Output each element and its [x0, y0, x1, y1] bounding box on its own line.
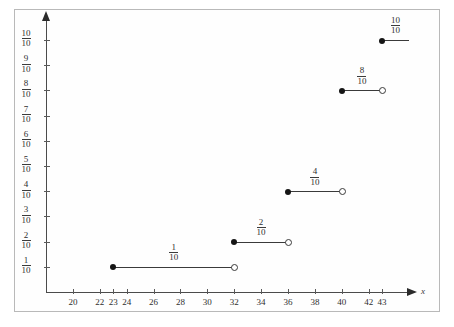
step-segment: [342, 90, 382, 91]
x-axis-tick-label: 32: [223, 297, 245, 307]
step-segment: [288, 191, 342, 192]
y-axis-tick: [44, 40, 50, 41]
x-axis-label: x: [421, 286, 425, 296]
x-axis-tick: [315, 289, 316, 294]
x-axis-tick-label: 34: [250, 297, 272, 307]
y-axis-tick: [44, 141, 50, 142]
x-axis-tick: [342, 289, 343, 294]
y-axis-tick: [44, 90, 50, 91]
y-axis-tick: [44, 267, 50, 268]
step-value-label: 1010: [381, 16, 411, 36]
closed-endpoint-dot: [339, 88, 345, 94]
figure-container: x 11021031041051061071081091010102022232…: [0, 0, 454, 327]
open-endpoint-circle: [379, 87, 386, 94]
x-axis-tick: [234, 289, 235, 294]
open-endpoint-circle: [285, 239, 292, 246]
x-axis-tick: [261, 289, 262, 294]
y-axis-line: [46, 18, 47, 293]
x-axis-tick-label: 36: [277, 297, 299, 307]
y-axis-tick-label: 210: [12, 231, 40, 251]
closed-endpoint-dot: [379, 38, 385, 44]
y-axis-tick-label: 710: [12, 105, 40, 125]
open-endpoint-circle: [339, 188, 346, 195]
closed-endpoint-dot: [110, 264, 116, 270]
x-axis-tick-label: 38: [304, 297, 326, 307]
y-axis-tick-label: 110: [12, 256, 40, 276]
x-axis-tick: [113, 289, 114, 294]
y-axis-tick-label: 910: [12, 54, 40, 74]
step-value-label: 210: [246, 218, 276, 238]
x-axis-tick-label: 28: [169, 297, 191, 307]
step-value-label: 110: [159, 243, 189, 263]
open-endpoint-circle: [231, 264, 238, 271]
y-axis-tick: [44, 242, 50, 243]
y-axis-tick: [44, 65, 50, 66]
y-axis-tick-label: 310: [12, 205, 40, 225]
step-value-label: 810: [347, 66, 377, 86]
y-axis-tick: [44, 191, 50, 192]
step-segment: [113, 267, 234, 268]
y-axis-tick-label: 610: [12, 130, 40, 150]
x-axis-arrow-icon: [407, 288, 417, 296]
x-axis-tick-label: 43: [371, 297, 393, 307]
step-segment: [382, 40, 409, 41]
x-axis-tick-label: 26: [143, 297, 165, 307]
y-axis-tick-label: 410: [12, 180, 40, 200]
step-segment: [234, 242, 288, 243]
closed-endpoint-dot: [285, 189, 291, 195]
closed-endpoint-dot: [231, 239, 237, 245]
x-axis-tick-label: 24: [116, 297, 138, 307]
x-axis-tick-label: 20: [62, 297, 84, 307]
x-axis-tick-label: 30: [196, 297, 218, 307]
y-axis-arrow-icon: [42, 11, 50, 21]
x-axis-tick-label: 40: [331, 297, 353, 307]
x-axis-tick: [127, 289, 128, 294]
x-axis-tick: [180, 289, 181, 294]
step-function-plot: x 11021031041051061071081091010102022232…: [0, 0, 454, 327]
x-axis-tick: [288, 289, 289, 294]
y-axis-tick-label: 510: [12, 155, 40, 175]
x-axis-tick: [154, 289, 155, 294]
y-axis-tick: [44, 166, 50, 167]
x-axis-tick: [73, 289, 74, 294]
x-axis-tick: [369, 289, 370, 294]
x-axis-tick: [207, 289, 208, 294]
x-axis-tick: [100, 289, 101, 294]
step-value-label: 410: [300, 167, 330, 187]
y-axis-tick-label: 810: [12, 79, 40, 99]
y-axis-tick-label: 1010: [12, 29, 40, 49]
y-axis-tick: [44, 116, 50, 117]
y-axis-tick: [44, 216, 50, 217]
x-axis-tick: [382, 289, 383, 294]
